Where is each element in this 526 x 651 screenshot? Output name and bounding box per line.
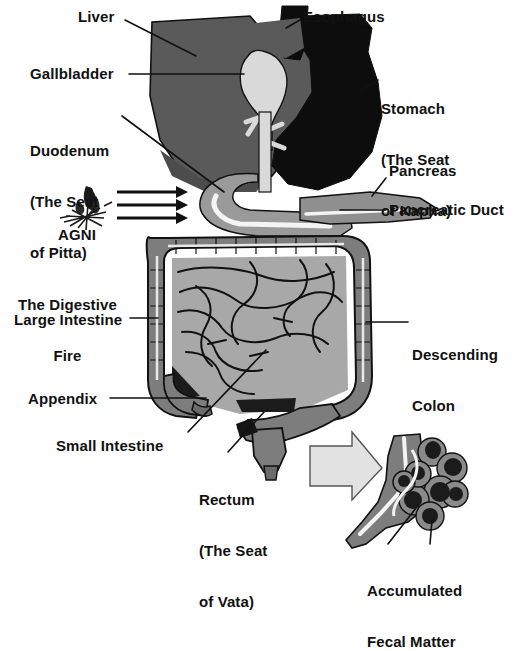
label-descending-colon-line2: Colon	[412, 397, 498, 414]
small-intestine-inner-shadow-2	[236, 398, 296, 412]
label-large-intestine: Large Intestine	[14, 311, 122, 328]
label-stomach-line1: Stomach	[381, 100, 451, 117]
label-esophagus: Esophagus	[303, 8, 385, 25]
label-rectum-line1: Rectum	[199, 491, 267, 508]
label-duodenum: Duodenum (The Seat of Pitta)	[30, 108, 109, 278]
label-duodenum-line2: (The Seat	[30, 193, 109, 210]
label-pancreas: Pancreas	[389, 162, 457, 179]
label-accumulated-line2: Fecal Matter	[367, 633, 462, 650]
common-bile-duct	[259, 112, 271, 192]
label-small-intestine: Small Intestine	[56, 437, 163, 454]
label-accumulated-fecal-matter: Accumulated Fecal Matter	[367, 548, 462, 651]
label-descending-colon-line1: Descending	[412, 346, 498, 363]
label-agni: AGNI	[58, 226, 96, 243]
label-appendix: Appendix	[28, 390, 97, 407]
label-accumulated-line1: Accumulated	[367, 582, 462, 599]
label-rectum-line2: (The Seat	[199, 542, 267, 559]
label-duodenum-line1: Duodenum	[30, 142, 109, 159]
label-liver: Liver	[78, 8, 114, 25]
label-rectum: Rectum (The Seat of Vata)	[199, 457, 267, 627]
label-pancreatic-duct: Pancreatic Duct	[389, 201, 504, 218]
label-gallbladder: Gallbladder	[30, 65, 114, 82]
heat-arrow-heads	[176, 186, 188, 224]
label-descending-colon: Descending Colon	[412, 312, 498, 431]
label-duodenum-line3: of Pitta)	[30, 244, 109, 261]
label-rectum-line3: of Vata)	[199, 593, 267, 610]
label-digestive-fire-line2: Fire	[18, 347, 117, 364]
small-intestine-organ	[172, 256, 348, 414]
